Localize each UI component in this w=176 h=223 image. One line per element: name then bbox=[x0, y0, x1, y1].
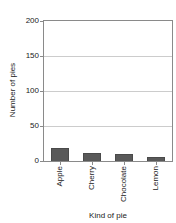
bar bbox=[115, 154, 133, 161]
x-category-label: Cherry bbox=[86, 166, 98, 211]
x-category-label: Apple bbox=[54, 166, 66, 211]
y-tick-label: 50 bbox=[15, 121, 39, 131]
y-tick-mark bbox=[40, 126, 43, 127]
x-category-label: Lemon bbox=[150, 166, 162, 211]
x-tick-mark bbox=[124, 162, 125, 165]
y-tick-mark bbox=[40, 91, 43, 92]
gridline bbox=[44, 56, 172, 57]
y-tick-mark bbox=[40, 56, 43, 57]
x-category-label: Chocolate bbox=[118, 166, 130, 211]
x-tick-mark bbox=[92, 162, 93, 165]
bar bbox=[147, 157, 165, 161]
gridline bbox=[44, 126, 172, 127]
x-tick-mark bbox=[60, 162, 61, 165]
bar bbox=[83, 153, 101, 161]
y-tick-label: 100 bbox=[15, 86, 39, 96]
y-tick-mark bbox=[40, 21, 43, 22]
bar-chart: Number of pies Kind of pie 050100150200A… bbox=[0, 0, 176, 223]
x-axis-title: Kind of pie bbox=[43, 210, 173, 222]
plot-area bbox=[43, 20, 173, 162]
y-tick-label: 150 bbox=[15, 51, 39, 61]
bar bbox=[51, 148, 69, 161]
gridline bbox=[44, 91, 172, 92]
y-tick-mark bbox=[40, 161, 43, 162]
x-tick-mark bbox=[156, 162, 157, 165]
y-tick-label: 200 bbox=[15, 16, 39, 26]
y-tick-label: 0 bbox=[15, 156, 39, 166]
